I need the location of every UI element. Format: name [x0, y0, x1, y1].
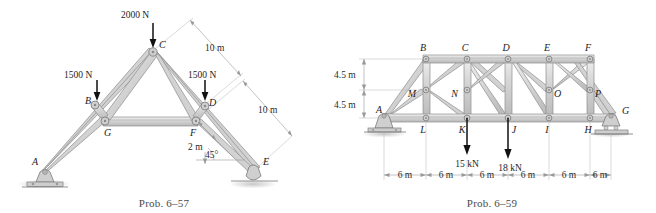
- dimension-label-45m-upper: 4.5 m: [334, 70, 356, 80]
- dimension-label-6m-4: 6 m: [521, 170, 536, 180]
- dimension-label-45m-lower: 4.5 m: [334, 100, 356, 110]
- joint-label-g-right: G: [622, 105, 629, 116]
- joint-label-f-right: F: [584, 42, 592, 53]
- truss-diagram-roof: 2000 N 1500 N 1500 N C B D G F A E 10 m …: [0, 0, 328, 213]
- member-a-g: [43, 117, 106, 173]
- load-arrow-2000n: [150, 23, 157, 48]
- joint-label-n: N: [450, 88, 459, 99]
- joint-label-h: H: [583, 124, 592, 135]
- dimension-label-10m-lower: 10 m: [258, 105, 278, 115]
- joint-label-o: O: [554, 88, 561, 99]
- joint-label-a-right: A: [375, 104, 383, 115]
- figure-caption-right: Prob. 6–59: [328, 197, 656, 209]
- member-f-e: [196, 119, 255, 173]
- support-pin-a: [22, 170, 68, 188]
- member-c-f: [154, 52, 198, 121]
- joint-hole-c: [152, 51, 155, 54]
- figure-prob-6-59: B C D E F M N O P A L K J I H G 4.5 m 4.…: [328, 0, 656, 213]
- load-label-18kn: 18 kN: [498, 163, 522, 173]
- dimension-label-6m-6: 6 m: [593, 170, 608, 180]
- joint-label-l: L: [419, 124, 426, 135]
- figure-sheet: 2000 N 1500 N 1500 N C B D G F A E 10 m …: [0, 0, 656, 213]
- joint-label-g: G: [104, 127, 111, 138]
- load-label-1500n-right: 1500 N: [188, 70, 216, 80]
- dimension-10m-upper: [155, 18, 243, 103]
- dimension-label-6m-1: 6 m: [398, 170, 413, 180]
- member-c-g: [104, 52, 157, 120]
- dimension-label-6m-2: 6 m: [439, 170, 454, 180]
- dimension-label-45deg: 45°: [205, 150, 219, 160]
- joint-label-b-right: B: [420, 42, 426, 53]
- joint-label-b: B: [85, 95, 91, 106]
- joint-label-m: M: [407, 88, 417, 99]
- joint-label-e-right: E: [543, 42, 550, 53]
- figure-caption-left: Prob. 6–57: [0, 197, 328, 209]
- bottom-chord: [382, 114, 615, 122]
- joint-label-f: F: [189, 127, 197, 138]
- load-label-1500n-left: 1500 N: [64, 70, 92, 80]
- joint-label-j: J: [512, 124, 517, 135]
- member-g-f: [103, 117, 198, 126]
- joint-hole-f: [195, 120, 197, 122]
- truss-diagram-bridge: B C D E F M N O P A L K J I H G 4.5 m 4.…: [328, 0, 656, 213]
- joint-label-i: I: [544, 124, 549, 135]
- support-roller-e: [231, 165, 278, 181]
- load-label-15kn: 15 kN: [455, 159, 479, 169]
- joint-label-e: E: [262, 156, 269, 167]
- load-label-2000n: 2000 N: [121, 10, 149, 20]
- joint-label-a: A: [31, 156, 39, 167]
- figure-prob-6-57: 2000 N 1500 N 1500 N C B D G F A E 10 m …: [0, 0, 328, 213]
- load-arrow-1500n-left: [94, 80, 101, 101]
- joint-hole-g: [104, 120, 106, 122]
- joint-label-p: P: [594, 88, 601, 99]
- joint-label-k: K: [458, 124, 467, 135]
- load-arrow-18kn: [504, 118, 511, 159]
- dimension-label-6m-3: 6 m: [480, 170, 495, 180]
- dimension-10m-lower: [209, 79, 292, 167]
- dimension-label-6m-5: 6 m: [562, 170, 577, 180]
- joint-label-c-right: C: [462, 42, 469, 53]
- dimension-label-10m-upper: 10 m: [205, 43, 225, 53]
- joint-label-d-right: D: [501, 42, 510, 53]
- joint-label-c: C: [159, 39, 166, 50]
- joint-hole-d: [204, 105, 206, 107]
- mid-chord: [423, 87, 594, 94]
- joint-label-d: D: [208, 97, 217, 108]
- dimension-label-2m: 2 m: [188, 142, 203, 152]
- load-arrow-1500n-right: [202, 80, 209, 101]
- joint-hole-b: [94, 104, 96, 106]
